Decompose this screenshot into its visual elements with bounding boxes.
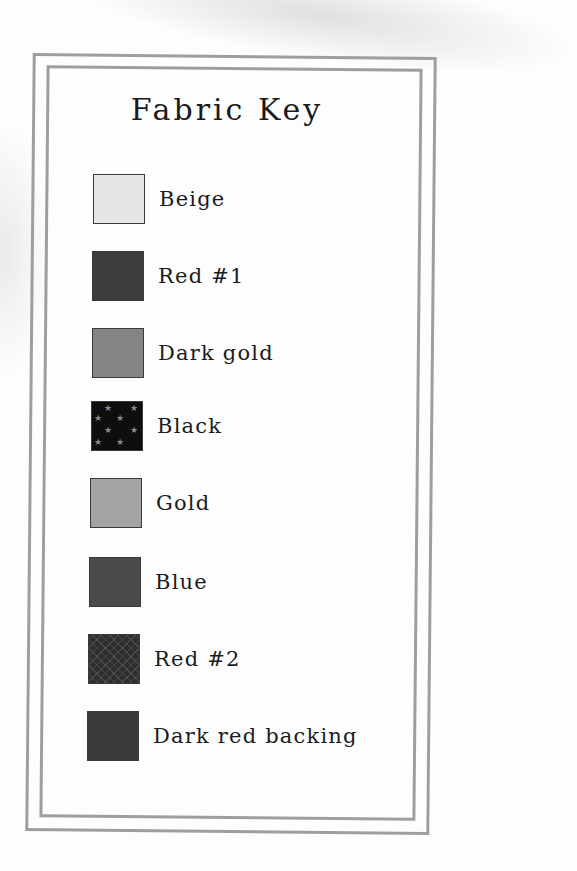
star-icon: ★	[104, 404, 112, 413]
star-icon: ★	[116, 414, 124, 423]
star-icon: ★	[94, 438, 102, 447]
fabric-swatch	[89, 557, 141, 607]
star-icon: ★	[116, 438, 124, 447]
star-icon: ★	[130, 426, 138, 435]
fabric-key-item: Dark gold	[92, 328, 274, 378]
fabric-label: Black	[157, 414, 222, 438]
fabric-label: Dark red backing	[153, 724, 358, 748]
fabric-label: Red #2	[154, 647, 241, 671]
fabric-key-item: Red #2	[88, 634, 241, 684]
fabric-key-item: Dark red backing	[87, 711, 358, 761]
key-title: Fabric Key	[46, 92, 408, 127]
fabric-label: Gold	[156, 491, 210, 515]
fabric-key-item: Blue	[89, 557, 208, 607]
fabric-swatch	[87, 711, 139, 761]
fabric-label: Red #1	[158, 264, 245, 288]
star-icon: ★	[104, 426, 112, 435]
star-icon: ★	[130, 404, 138, 413]
fabric-swatch	[93, 174, 145, 224]
fabric-label: Blue	[155, 570, 208, 594]
fabric-swatch	[92, 251, 144, 301]
fabric-swatch	[92, 328, 144, 378]
fabric-label: Beige	[159, 187, 225, 211]
fabric-label: Dark gold	[158, 341, 274, 365]
fabric-swatch: ★★★★★★★★	[91, 401, 143, 451]
fabric-swatch	[90, 478, 142, 528]
fabric-key-item: Gold	[90, 478, 210, 528]
fabric-key-item: Beige	[93, 174, 225, 224]
fabric-swatch	[88, 634, 140, 684]
fabric-key-item: Red #1	[92, 251, 245, 301]
fabric-key-item: ★★★★★★★★Black	[91, 401, 222, 451]
star-icon: ★	[94, 414, 102, 423]
